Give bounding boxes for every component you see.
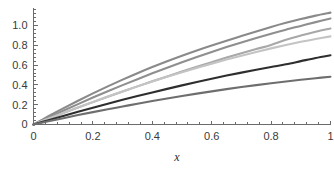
x-tick-label: 0.2: [85, 130, 100, 142]
y-axis-ticks: [34, 10, 38, 125]
x-axis-title: x: [173, 150, 180, 164]
data-curve-curve-3: [34, 28, 331, 124]
y-tick-label: 0.6: [12, 59, 27, 71]
y-tick-label: 0: [21, 118, 27, 130]
x-tick-label: 0.6: [204, 130, 219, 142]
x-tick-label: 0.4: [145, 130, 160, 142]
x-tick-label: 0: [30, 130, 36, 142]
y-tick-label: 0.2: [12, 99, 27, 111]
chart-figure: 00.20.40.60.81.0 00.20.40.60.81 x: [0, 0, 334, 177]
x-axis-tick-labels: 00.20.40.60.81: [30, 130, 333, 142]
line-chart: 00.20.40.60.81.0 00.20.40.60.81 x: [0, 0, 334, 177]
y-tick-label: 1.0: [12, 19, 27, 31]
y-tick-label: 0.4: [12, 79, 27, 91]
y-tick-label: 0.8: [12, 39, 27, 51]
x-tick-label: 0.8: [263, 130, 278, 142]
y-axis-tick-labels: 00.20.40.60.81.0: [12, 19, 27, 130]
x-tick-label: 1: [327, 130, 333, 142]
x-axis-ticks: [34, 121, 331, 125]
data-curves: [34, 13, 331, 125]
